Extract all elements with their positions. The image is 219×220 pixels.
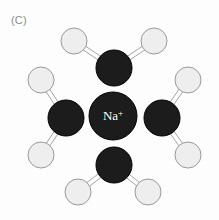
hydrogen-top-left xyxy=(61,28,87,54)
water-molecule-top-oxygen xyxy=(96,50,132,86)
hydrogen-bottom-left xyxy=(65,179,91,205)
figure-panel: (C) Na+ xyxy=(0,0,219,220)
water-molecule-left-oxygen xyxy=(48,100,84,136)
atom-layer: Na+ xyxy=(28,28,201,205)
ion-label-element: Na xyxy=(103,108,118,123)
hydrogen-top-right xyxy=(141,28,167,54)
hydrogen-left-lower xyxy=(28,142,54,168)
water-molecule-bottom-oxygen xyxy=(96,147,132,183)
water-molecule-right-oxygen xyxy=(144,100,180,136)
ion-label-charge: + xyxy=(118,108,123,118)
hydrogen-left-upper xyxy=(28,67,54,93)
molecule-diagram: Na+ xyxy=(0,0,219,220)
hydrogen-bottom-right xyxy=(135,179,161,205)
hydrogen-right-lower xyxy=(175,142,201,168)
hydrogen-right-upper xyxy=(175,67,201,93)
